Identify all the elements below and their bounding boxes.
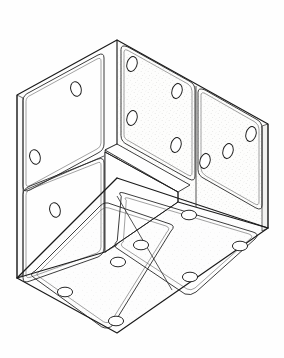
annotation-note: No textual labels, dimensions, callouts …: [2, 10, 158, 15]
drawing-title: Isometric corner assembly line drawing: [2, 4, 71, 9]
left-edge-thickness-band: [17, 95, 23, 278]
right-edge-thickness-band: [262, 124, 268, 231]
hole-floor-4: [181, 210, 196, 220]
hole-floor-6: [232, 241, 247, 251]
hole-floor-3: [108, 316, 123, 326]
hole-floor-2: [57, 287, 72, 297]
figure-root: Isometric corner assembly line drawing N…: [0, 0, 284, 358]
hole-floor-1: [110, 257, 125, 267]
isometric-corner-drawing: Isometric corner assembly line drawing N…: [0, 0, 284, 358]
hole-floor-5: [133, 240, 148, 250]
hole-floor-7: [182, 272, 197, 282]
